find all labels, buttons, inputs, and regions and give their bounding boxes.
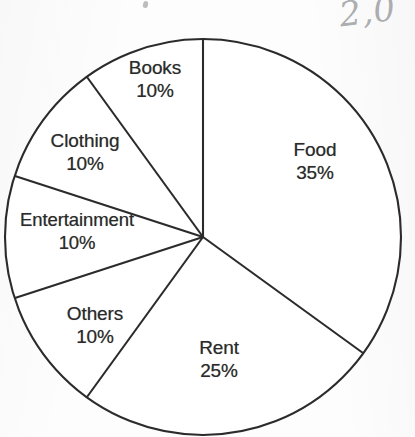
pie-slice-value-food: 35%: [269, 161, 361, 184]
pie-slice-name-books: Books: [108, 56, 202, 79]
pie-slice-value-others: 10%: [43, 325, 147, 348]
pie-slice-label-rent: Rent 25%: [173, 336, 265, 382]
pie-slice-label-books: Books 10%: [108, 56, 202, 102]
pie-slice-name-entertainment: Entertainment: [2, 209, 152, 232]
pie-slice-name-clothing: Clothing: [31, 129, 139, 152]
pie-slice-label-clothing: Clothing 10%: [31, 129, 139, 175]
pie-slice-value-books: 10%: [108, 79, 202, 102]
scanned-page: Food 35% Rent 25% Others 10% Entertainme…: [0, 0, 415, 437]
pie-slice-name-others: Others: [43, 302, 147, 325]
pie-slice-label-entertainment: Entertainment 10%: [2, 209, 152, 254]
pie-slice-label-food: Food 35%: [269, 138, 361, 184]
pie-slice-value-rent: 25%: [173, 359, 265, 382]
pie-slice-name-rent: Rent: [173, 336, 265, 359]
pie-slice-label-others: Others 10%: [43, 302, 147, 348]
pie-slice-name-food: Food: [269, 138, 361, 161]
pie-slice-value-clothing: 10%: [31, 152, 139, 175]
pie-slice-value-entertainment: 10%: [2, 232, 152, 255]
